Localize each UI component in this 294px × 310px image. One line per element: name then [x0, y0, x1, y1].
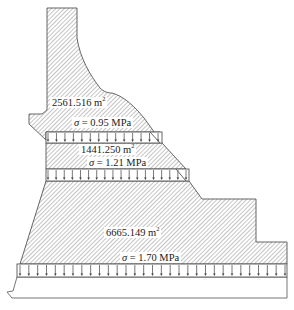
area-unit: m [148, 227, 156, 238]
stress-value: = 1.21 MPa [94, 157, 146, 168]
area-value: 2561.516 [52, 97, 91, 108]
foundation [7, 277, 287, 298]
stress-value: = 0.95 MPa [79, 117, 131, 128]
upper-area-label: 2561.516 m2 [50, 97, 107, 108]
stress-band-2 [46, 169, 189, 181]
lower-area-label: 6665.149 m2 [104, 227, 161, 238]
area-exponent: 2 [102, 95, 105, 102]
middle-area-label: 1441.250 m2 [79, 144, 136, 155]
area-value: 1441.250 [81, 144, 120, 155]
area-value: 6665.149 [106, 227, 145, 238]
area-unit: m [123, 144, 131, 155]
stress-band-1 [46, 132, 162, 143]
band-2-stress-label: σ = 1.21 MPa [87, 157, 148, 168]
band-1-stress-label: σ = 0.95 MPa [72, 117, 133, 128]
dam-stress-diagram: 2561.516 m2 σ = 0.95 MPa 1441.250 m2 σ =… [0, 0, 294, 310]
dam-section-drawing [0, 0, 294, 310]
band-3-stress-label: σ = 1.70 MPa [120, 252, 181, 263]
area-exponent: 2 [131, 142, 134, 149]
stress-band-3 [17, 264, 287, 277]
area-exponent: 2 [156, 225, 159, 232]
stress-value: = 1.70 MPa [127, 252, 179, 263]
area-unit: m [94, 97, 102, 108]
